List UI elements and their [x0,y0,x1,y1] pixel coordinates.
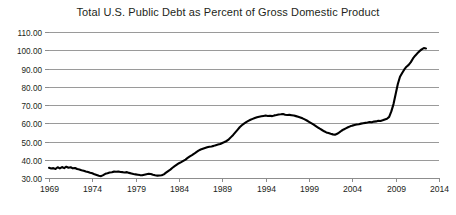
y-axis-tick-label: 60.00 [22,120,43,129]
y-axis-tick-label: 90.00 [22,66,43,75]
gridlines [45,33,440,182]
x-axis-tick-label: 1994 [257,184,276,194]
line-chart-plot: 30.0040.0050.0060.0070.0080.0090.00100.0… [0,0,456,215]
y-axis-tick-label: 100.00 [17,47,42,56]
data-series-group [49,48,426,176]
x-axis-tick-label: 1999 [300,184,319,194]
x-axis-tick-label: 1969 [40,184,59,194]
x-axis-tick-label: 1989 [213,184,232,194]
x-axis-tick-label: 1974 [83,184,102,194]
x-axis-tick-label: 2009 [387,184,406,194]
data-series-line [49,48,426,176]
x-axis-tick-labels: 1969197419791984198919941999200420092014 [40,184,449,194]
y-axis-tick-label: 80.00 [22,84,43,93]
y-axis-tick-labels: 30.0040.0050.0060.0070.0080.0090.00100.0… [17,29,42,184]
y-axis-tick-label: 50.00 [22,139,43,148]
x-axis-tick-label: 1979 [127,184,146,194]
x-axis-tick-label: 2014 [430,184,449,194]
y-axis-tick-label: 110.00 [18,29,43,38]
y-axis-tick-label: 30.00 [22,175,43,184]
y-axis-tick-label: 70.00 [22,102,43,111]
x-axis-tick-label: 2004 [343,184,362,194]
chart-container: Total U.S. Public Debt as Percent of Gro… [0,0,456,215]
y-axis-tick-label: 40.00 [22,157,43,166]
x-axis-tick-label: 1984 [170,184,189,194]
